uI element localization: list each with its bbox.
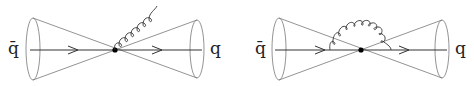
right-jet-cone — [435, 20, 449, 78]
right-jet-cone — [190, 20, 204, 78]
vertex — [358, 47, 363, 52]
antiquark-label: q̄ — [8, 40, 19, 57]
left-jet-cone — [272, 18, 286, 80]
antiquark-label: q̄ — [255, 40, 266, 57]
gluon-line — [115, 6, 157, 50]
diagram-virtual-loop: q̄ q — [237, 0, 474, 86]
feynman-diagram-emission — [0, 0, 237, 86]
gluon-loop — [330, 20, 391, 50]
quark-label: q — [210, 40, 221, 57]
diagram-real-emission: q̄ q — [0, 0, 237, 86]
left-jet-cone — [26, 18, 40, 80]
feynman-diagram-loop — [237, 0, 474, 86]
quark-label: q — [455, 40, 466, 57]
